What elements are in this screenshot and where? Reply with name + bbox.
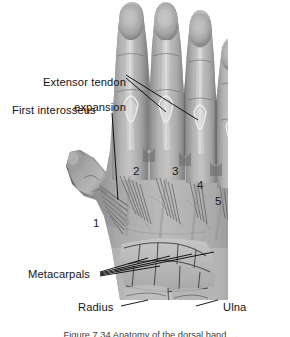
label-line-1: Extensor tendon (43, 76, 126, 88)
label-ulna: Ulna (223, 301, 246, 314)
anatomy-figure: Extensor tendon expansion First inteross… (0, 0, 290, 337)
label-metacarpals: Metacarpals (28, 268, 90, 281)
digit-number-2: 2 (133, 166, 139, 178)
digit-number-3: 3 (172, 166, 178, 178)
digit-number-4: 4 (197, 180, 203, 192)
digit-number-5: 5 (215, 196, 221, 208)
label-radius: Radius (78, 301, 113, 314)
digit-number-1: 1 (93, 218, 99, 230)
figure-caption: Figure 7.34 Anatomy of the dorsal hand (0, 330, 290, 337)
label-first-interosseus: First interosseus (12, 104, 96, 117)
hand-dissection-illustration (0, 0, 290, 337)
